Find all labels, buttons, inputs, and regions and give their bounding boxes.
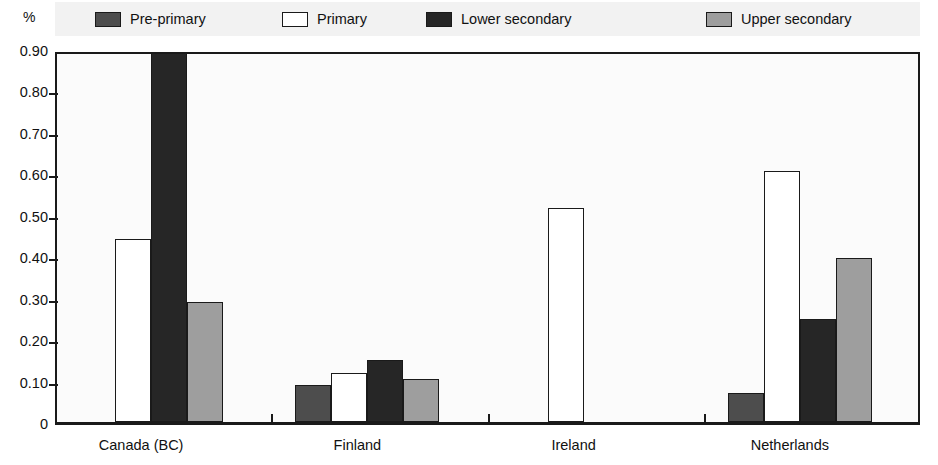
y-axis-tick-label: 0.20 [2,334,48,348]
bar-finland-lower-secondary [367,360,403,422]
y-axis-tick-label: 0.70 [2,127,48,141]
chart-legend: Pre-primary Primary Lower secondary Uppe… [55,2,920,36]
bar-chart: % Pre-primary Primary Lower secondary Up… [0,0,938,465]
legend-item-primary: Primary [282,9,367,29]
legend-item-upper-secondary: Upper secondary [706,9,851,29]
y-axis-tick [49,301,58,303]
x-axis-category-label: Canada (BC) [99,437,184,453]
y-axis-tick-label: 0.90 [2,44,48,58]
y-axis-tick-label: 0.40 [2,251,48,265]
legend-label-lower-secondary: Lower secondary [461,11,571,27]
y-axis-tick-label: 0.10 [2,376,48,390]
x-axis-tick [488,414,490,425]
y-axis-tick-label: 0.50 [2,210,48,224]
bars-layer [57,54,918,422]
legend-item-pre-primary: Pre-primary [95,9,206,29]
bar-netherlands-upper-secondary [836,258,872,422]
legend-swatch-lower-secondary [426,12,452,27]
y-axis: 00.100.200.300.400.500.600.700.800.90 [0,0,48,465]
legend-swatch-pre-primary [95,12,121,27]
y-axis-tick [49,176,58,178]
y-axis-tick-label: 0.30 [2,293,48,307]
y-axis-tick-label: 0.80 [2,85,48,99]
bar-canada-bc-primary [115,239,151,422]
plot-area [55,52,920,425]
bar-finland-pre-primary [295,385,331,422]
legend-swatch-primary [282,12,308,27]
y-axis-tick [49,259,58,261]
y-axis-tick [49,93,58,95]
bar-canada-bc-upper-secondary [187,302,223,422]
bar-ireland-primary [548,208,584,422]
y-axis-tick [49,342,58,344]
legend-label-pre-primary: Pre-primary [130,11,206,27]
x-axis-category-label: Netherlands [751,437,829,453]
y-axis-tick-label: 0 [2,417,48,431]
legend-swatch-upper-secondary [706,12,732,27]
y-axis-tick [49,135,58,137]
bar-finland-upper-secondary [403,379,439,422]
bar-netherlands-primary [764,171,800,422]
x-axis-category-label: Finland [334,437,382,453]
y-axis-tick [49,384,58,386]
legend-label-upper-secondary: Upper secondary [741,11,851,27]
x-axis-category-label: Ireland [551,437,595,453]
x-axis-tick [704,414,706,425]
bar-canada-bc-lower-secondary [151,52,187,422]
legend-label-primary: Primary [317,11,367,27]
y-axis-tick [49,218,58,220]
y-axis-tick-label: 0.60 [2,168,48,182]
bar-netherlands-lower-secondary [800,319,836,422]
bar-netherlands-pre-primary [728,393,764,422]
legend-item-lower-secondary: Lower secondary [426,9,571,29]
bar-finland-primary [331,373,367,422]
x-axis-tick [271,414,273,425]
